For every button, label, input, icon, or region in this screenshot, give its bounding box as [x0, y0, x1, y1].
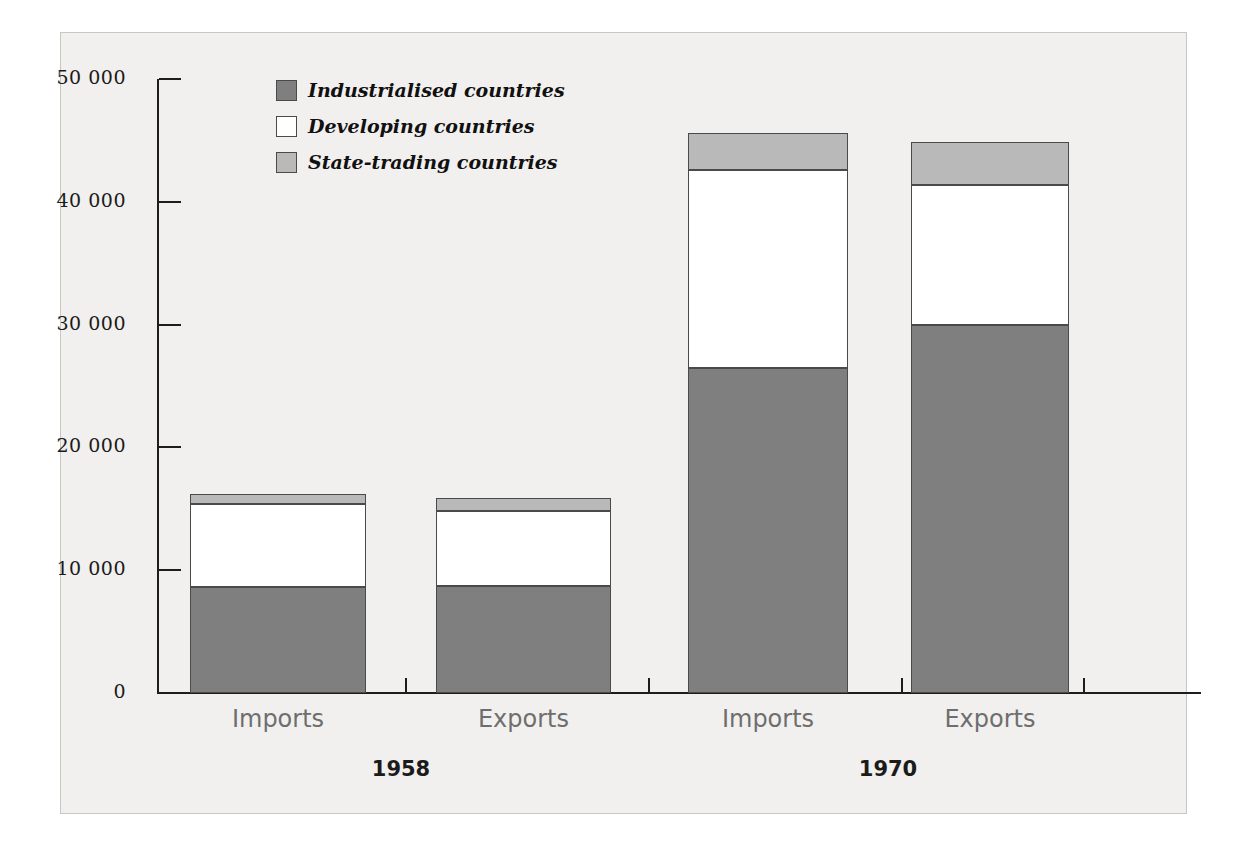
chart-legend: Industrialised countries Developing coun…: [276, 75, 565, 183]
x-separator-tick-4: [1083, 678, 1085, 694]
bar-segment-1970-imports-industrialised: [688, 368, 848, 693]
bar-segment-1958-exports-developing: [436, 511, 611, 587]
y-tick-label-40000: 40 000: [0, 189, 126, 211]
bar-segment-1970-exports-developing: [911, 185, 1069, 325]
legend-label-developing: Developing countries: [308, 115, 534, 137]
bar-1958-exports: [436, 498, 611, 693]
x-separator-tick-3: [901, 678, 903, 694]
bar-segment-1958-imports-industrialised: [190, 587, 366, 693]
bar-segment-1970-imports-developing: [688, 170, 848, 368]
y-tick-50000: [159, 78, 181, 80]
x-separator-tick-1: [405, 678, 407, 694]
y-tick-40000: [159, 201, 181, 203]
legend-swatch-icon-industrialised: [276, 80, 297, 101]
legend-swatch-icon-state-trading: [276, 152, 297, 173]
bar-1970-imports: [688, 133, 848, 693]
chart-panel: 50 000 40 000 30 000 20 000 10 000 0 Imp…: [60, 32, 1187, 814]
x-separator-tick-2: [648, 678, 650, 694]
legend-swatch-icon-developing: [276, 116, 297, 137]
y-tick-label-0: 0: [0, 680, 126, 702]
chart-figure: 50 000 40 000 30 000 20 000 10 000 0 Imp…: [0, 0, 1247, 846]
group-label-1970: 1970: [800, 757, 976, 781]
group-label-1958: 1958: [313, 757, 489, 781]
legend-item-developing: Developing countries: [276, 111, 565, 141]
plot-area: 50 000 40 000 30 000 20 000 10 000 0 Imp…: [61, 33, 1188, 815]
category-label-1970-exports: Exports: [911, 705, 1069, 733]
legend-item-industrialised: Industrialised countries: [276, 75, 565, 105]
legend-item-state-trading: State-trading countries: [276, 147, 565, 177]
category-label-1958-imports: Imports: [190, 705, 366, 733]
legend-label-industrialised: Industrialised countries: [308, 79, 565, 101]
bar-1958-imports: [190, 494, 366, 693]
category-label-1958-exports: Exports: [436, 705, 611, 733]
y-tick-10000: [159, 569, 181, 571]
y-tick-label-10000: 10 000: [0, 557, 126, 579]
y-tick-label-50000: 50 000: [0, 66, 126, 88]
legend-label-state-trading: State-trading countries: [308, 151, 558, 173]
bar-1970-exports: [911, 142, 1069, 693]
bar-segment-1970-imports-state-trading: [688, 133, 848, 170]
y-axis-line: [157, 79, 159, 692]
y-tick-30000: [159, 324, 181, 326]
bar-segment-1958-imports-state-trading: [190, 494, 366, 504]
y-tick-20000: [159, 446, 181, 448]
bar-segment-1958-exports-state-trading: [436, 498, 611, 511]
bar-segment-1958-imports-developing: [190, 504, 366, 588]
y-tick-label-30000: 30 000: [0, 312, 126, 334]
category-label-1970-imports: Imports: [688, 705, 848, 733]
bar-segment-1970-exports-state-trading: [911, 142, 1069, 185]
bar-segment-1970-exports-industrialised: [911, 325, 1069, 693]
y-tick-label-20000: 20 000: [0, 434, 126, 456]
bar-segment-1958-exports-industrialised: [436, 586, 611, 693]
